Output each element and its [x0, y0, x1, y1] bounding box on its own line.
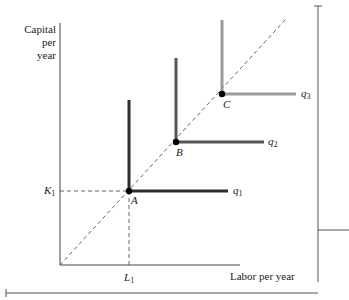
q2-sub: 2: [274, 140, 278, 149]
isoquant-q3: [222, 20, 296, 94]
point-b-label: B: [176, 146, 183, 158]
y-axis-label-line3: year: [12, 49, 56, 62]
point-b-marker: [173, 139, 179, 145]
q2-label: q2: [268, 135, 278, 151]
q3-sub: 3: [307, 92, 311, 101]
y-axis-label: Capital per year: [12, 23, 56, 62]
l1-tick-label: L1: [124, 271, 134, 287]
l1-sub: 1: [130, 276, 134, 285]
y-axis-label-line2: per: [12, 36, 56, 49]
k1-sub: 1: [51, 189, 55, 198]
q3-label: q3: [301, 87, 311, 103]
q1-label: q1: [233, 184, 243, 200]
isoquant-q2: [176, 58, 264, 142]
q1-sub: 1: [239, 189, 243, 198]
k1-tick-label: K1: [44, 184, 55, 200]
y-axis-label-line1: Capital: [12, 23, 56, 36]
point-a-label: A: [131, 194, 138, 206]
x-axis-label: Labor per year: [230, 270, 295, 282]
point-c-marker: [219, 91, 225, 97]
point-c-label: C: [223, 98, 230, 110]
